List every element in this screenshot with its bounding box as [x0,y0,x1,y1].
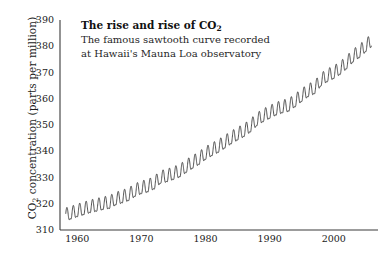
x-axis-tick-label: 2000 [312,234,356,244]
chart-title-subscript: 2 [216,24,221,33]
chart-subtitle-line-1: The famous sawtooth curve recorded [81,33,286,46]
x-axis-tick-label: 1960 [55,234,99,244]
data-series-group [66,37,372,220]
y-axis-tick-label: 350 [28,120,54,130]
y-axis-tick-label: 370 [28,68,54,78]
y-axis-tick-label: 310 [28,225,54,235]
y-axis-tick-label: 330 [28,173,54,183]
y-axis-tick-label: 390 [28,15,54,25]
chart-title: The rise and rise of CO2 [81,19,286,32]
co2-curve-line [66,37,372,220]
chart-annotation: The rise and rise of CO2 The famous sawt… [81,19,286,60]
chart-figure: CO2 concentration (parts per million) 31… [0,0,388,267]
y-axis-tick-label: 380 [28,41,54,51]
y-axis-tick-label: 320 [28,199,54,209]
chart-title-prefix: The rise and rise of CO [81,19,216,31]
x-axis-tick-label: 1980 [184,234,228,244]
x-axis-tick-label: 1970 [119,234,163,244]
x-axis-tick-label: 1990 [248,234,292,244]
y-axis-tick-labels: 310320330340350360370380390 [26,0,54,267]
y-axis-tick-label: 340 [28,146,54,156]
chart-subtitle-line-2: at Hawaii's Mauna Loa observatory [81,47,286,60]
y-axis-tick-label: 360 [28,94,54,104]
